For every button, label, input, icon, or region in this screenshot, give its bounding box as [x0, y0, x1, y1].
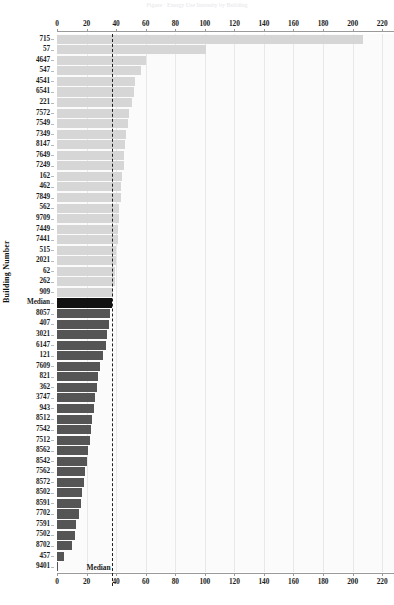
y-axis-tick: [51, 124, 54, 125]
y-axis-tick: [51, 103, 54, 104]
y-axis-tick: [51, 430, 54, 431]
bar: [57, 235, 118, 244]
x-axis-label: 100: [199, 577, 210, 586]
bar: [57, 383, 97, 392]
y-axis-label: 6147: [36, 341, 50, 350]
bar-row: [57, 214, 394, 223]
y-axis-label: 7449: [36, 225, 50, 234]
bar: [57, 66, 141, 75]
x-axis-label: 0: [55, 577, 59, 586]
y-axis-tick: [51, 335, 54, 336]
bar: [57, 415, 92, 424]
x-axis-tick: [353, 29, 354, 32]
y-axis-label: 515: [40, 246, 50, 255]
y-axis-label: 7542: [36, 425, 50, 434]
y-axis-label: 3021: [36, 330, 50, 339]
x-axis-tick: [382, 573, 383, 576]
bar-row: [57, 87, 394, 96]
y-axis-label: 6541: [36, 87, 50, 96]
y-axis-label: 7512: [36, 436, 50, 445]
x-axis-tick: [205, 573, 206, 576]
bar-series: [57, 34, 394, 572]
bar-row: [57, 151, 394, 160]
x-axis-label: 140: [259, 577, 270, 586]
x-axis-label: 120: [229, 577, 240, 586]
y-axis-tick: [51, 482, 54, 483]
y-axis-label: 8512: [36, 414, 50, 423]
bar: [57, 140, 125, 149]
bar: [57, 520, 76, 529]
y-axis-label: 821: [40, 372, 50, 381]
y-axis-tick: [51, 261, 54, 262]
bar-row: [57, 467, 394, 476]
y-axis-tick: [51, 155, 54, 156]
y-axis-tick: [51, 303, 54, 304]
y-axis-tick: [51, 145, 54, 146]
bar-row: [57, 383, 394, 392]
bar-row: [57, 330, 394, 339]
x-axis-tick: [205, 29, 206, 32]
bar: [57, 56, 146, 65]
bar-row: [57, 77, 394, 86]
bar: [57, 109, 129, 118]
x-axis-label: 40: [113, 577, 120, 586]
bar-row: [57, 161, 394, 170]
bar-row: [57, 140, 394, 149]
bar-row: [57, 66, 394, 75]
bar-row: [57, 351, 394, 360]
y-axis-tick: [51, 461, 54, 462]
bar-row: [57, 256, 394, 265]
x-axis-label: 0: [55, 19, 59, 28]
bar-row: [57, 320, 394, 329]
x-axis-tick: [116, 573, 117, 576]
bar-row: [57, 235, 394, 244]
y-axis-label: 7549: [36, 119, 50, 128]
x-axis-label: 60: [142, 19, 149, 28]
bar: [57, 393, 95, 402]
bar: [57, 87, 134, 96]
y-axis-label: 7849: [36, 193, 50, 202]
bar: [57, 204, 119, 213]
bar-row: [57, 309, 394, 318]
y-axis-tick-labels: 7155746475474541654122175727549734981477…: [0, 34, 54, 572]
x-axis-tick: [146, 29, 147, 32]
bar: [57, 425, 91, 434]
y-axis-tick: [51, 71, 54, 72]
bar-row: [57, 393, 394, 402]
bar: [57, 478, 84, 487]
y-axis-tick: [51, 282, 54, 283]
y-axis-label: 715: [40, 35, 50, 44]
x-axis-bottom: 020406080100120140160180200220: [57, 573, 394, 589]
x-axis-label: 80: [172, 577, 179, 586]
bar: [57, 225, 118, 234]
y-axis-tick: [51, 229, 54, 230]
y-axis-label: 362: [40, 383, 50, 392]
bar-row: [57, 341, 394, 350]
x-axis-tick: [293, 29, 294, 32]
bar-row: [57, 204, 394, 213]
bar-row: [57, 541, 394, 550]
bar-row: [57, 415, 394, 424]
bar-row: [57, 182, 394, 191]
bar-row: [57, 362, 394, 371]
y-axis-label: 407: [40, 319, 50, 328]
y-axis-tick: [51, 292, 54, 293]
y-axis-tick: [51, 398, 54, 399]
bar: [57, 320, 109, 329]
bar: [57, 119, 128, 128]
x-axis-label: 20: [83, 577, 90, 586]
y-axis-tick: [51, 440, 54, 441]
median-reference-line: [112, 34, 113, 586]
y-axis-label: 262: [40, 277, 50, 286]
x-axis-label: 160: [288, 577, 299, 586]
bar-row: [57, 499, 394, 508]
bar: [57, 351, 103, 360]
x-axis-tick: [116, 29, 117, 32]
y-axis-label: 162: [40, 172, 50, 181]
y-axis-label: 8591: [36, 499, 50, 508]
x-axis-tick: [175, 573, 176, 576]
bar: [57, 309, 110, 318]
y-axis-label: 909: [40, 288, 50, 297]
bar: [57, 562, 58, 571]
bar-row: [57, 98, 394, 107]
